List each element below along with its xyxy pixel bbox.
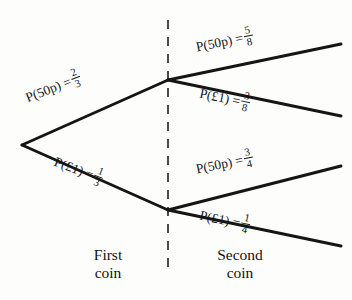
tree-canvas	[0, 0, 352, 300]
fraction-denominator: 8	[244, 36, 255, 49]
fraction-denominator: 4	[244, 158, 255, 171]
probability-tree-diagram: P(50p) =23 P(£1) =13 P(50p) =58 P(£1) =3…	[0, 0, 352, 300]
caption-first-coin-line2: coin	[62, 264, 154, 282]
caption-second-coin-line1: Second	[186, 246, 294, 264]
caption-first-coin-line1: First	[62, 246, 154, 264]
caption-first-coin: First coin	[62, 246, 154, 283]
branch-label-second-1pound-lower-text: P(£1) =	[198, 208, 241, 231]
caption-second-coin-line2: coin	[186, 264, 294, 282]
branch-second-1pound-upper-line	[168, 80, 341, 116]
branch-second-1pound-lower-line	[168, 210, 341, 246]
branch-label-second-1pound-upper-text: P(£1) =	[198, 86, 241, 109]
caption-second-coin: Second coin	[186, 246, 294, 283]
branch-second-50p-upper-line	[168, 44, 341, 80]
branch-second-50p-lower-line	[168, 166, 341, 210]
